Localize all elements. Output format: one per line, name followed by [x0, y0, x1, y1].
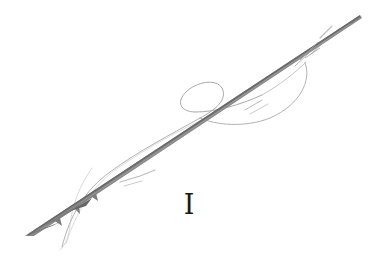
flourish-lines	[60, 62, 307, 250]
roman-numeral: I	[178, 190, 200, 220]
spear-fletching	[295, 40, 326, 66]
